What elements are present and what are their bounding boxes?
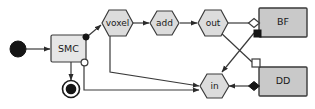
edge-smc-port-to-in <box>84 66 199 90</box>
edge-voxel-to-in <box>110 34 199 86</box>
bf-open-diamond-port[interactable] <box>249 19 260 28</box>
in-node[interactable]: in <box>200 74 229 98</box>
dd-open-square-port[interactable] <box>252 59 260 67</box>
dd-node[interactable]: DD <box>259 67 307 96</box>
voxel-node[interactable]: voxel <box>102 10 133 36</box>
add-node[interactable]: add <box>150 11 179 35</box>
bf-filled-square-port[interactable] <box>254 30 261 37</box>
edge-out-to-dd <box>220 32 252 62</box>
out-node[interactable]: out <box>198 10 228 36</box>
initial-node[interactable] <box>10 41 26 57</box>
bf-node[interactable]: BF <box>259 8 307 37</box>
edge-smc-port-to-voxel <box>88 25 101 36</box>
final-node[interactable] <box>63 81 80 98</box>
smc-open-circle-port[interactable] <box>81 59 88 66</box>
smc-filled-dot-port[interactable] <box>83 34 89 40</box>
smc-node[interactable]: SMC <box>51 35 86 62</box>
diagram-svg: SMC voxel add out in <box>0 0 315 109</box>
dd-filled-diamond-port[interactable] <box>249 82 260 91</box>
diagram-canvas: SMC voxel add out in <box>0 0 315 109</box>
